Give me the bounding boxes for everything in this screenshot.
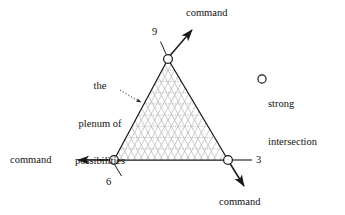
legend-label: strong intersection — [268, 73, 342, 173]
command-label-top: command — [186, 7, 227, 20]
command-label-left: command — [10, 154, 51, 167]
legend-line-2: intersection — [268, 136, 342, 149]
legend-open-circle-icon — [258, 75, 266, 83]
vertex-label-9: 9 — [152, 26, 157, 39]
plenum-line-3: possibilities — [52, 155, 148, 168]
apex-label-leader — [161, 42, 167, 55]
command-label-bottom: command — [219, 196, 260, 209]
vertex-label-3: 3 — [256, 154, 261, 167]
bottom-right-command-arrow — [230, 164, 244, 187]
bottom-right-strong-intersection-marker — [224, 156, 233, 165]
figure-canvas: command command command 9 6 3 the plenum… — [0, 0, 345, 215]
apex-command-arrow — [171, 30, 193, 55]
apex-strong-intersection-marker — [164, 55, 173, 64]
legend-line-1: strong — [268, 98, 342, 111]
plenum-line-2: plenum of — [52, 118, 148, 131]
plenum-line-1: the — [52, 80, 148, 93]
plenum-of-possibilities-label: the plenum of possibilities — [52, 55, 148, 193]
